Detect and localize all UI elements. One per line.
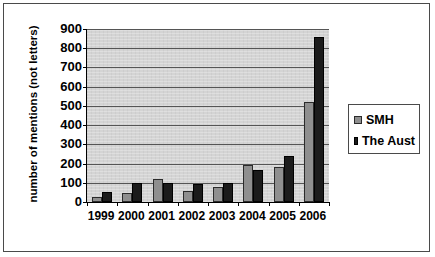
chart-figure: number of mentions (not letters) 9008007… [3,3,430,252]
bar-2004-smh [243,165,253,202]
x-tick-mark [208,202,209,206]
y-tick-label: 0 [36,197,82,207]
x-tick-mark [299,202,300,206]
x-tick-mark [178,202,179,206]
bar-2003-smh [213,187,223,202]
x-tick-mark [238,202,239,206]
bar-2006-the-aust [314,37,324,202]
bar-2002-smh [183,191,193,202]
bar-group [299,29,329,202]
legend-label-smh: SMH [366,113,394,127]
legend-swatch-smh [354,116,362,124]
y-tick-label: 200 [36,159,82,169]
x-tick-mark [329,202,330,206]
bar-2005-the-aust [284,156,294,202]
x-tick-label: 2006 [293,209,333,223]
bar-1999-smh [92,197,102,202]
bar-2000-the-aust [132,183,142,202]
bar-group [238,29,268,202]
legend-label-the-aust: The Aust [362,134,415,148]
legend-item-smh: SMH [354,109,415,130]
y-tick-label: 900 [36,24,82,34]
x-tick-mark [117,202,118,206]
bar-2001-smh [153,179,163,202]
y-tick-label: 100 [36,178,82,188]
bar-group [269,29,299,202]
bar-2002-the-aust [193,184,203,202]
y-tick-label: 700 [36,62,82,72]
bar-group [117,29,147,202]
y-tick-label: 500 [36,101,82,111]
bar-series-container [87,29,329,202]
bar-group [178,29,208,202]
x-tick-mark [269,202,270,206]
bar-2006-smh [304,102,314,202]
y-tick-label: 400 [36,120,82,130]
x-axis-tick-labels: 19992000200120022003200420052006 [86,209,328,225]
bar-2001-the-aust [163,183,173,202]
legend-swatch-the-aust [354,137,358,145]
bar-group [148,29,178,202]
x-tick-mark [148,202,149,206]
y-tick-label: 600 [36,82,82,92]
chart-legend: SMH The Aust [348,104,420,154]
y-tick-label: 300 [36,139,82,149]
plot-area [86,29,329,203]
x-tick-mark [87,202,88,206]
bar-2005-smh [274,167,284,202]
bar-2004-the-aust [253,170,263,202]
bar-group [208,29,238,202]
bar-group [87,29,117,202]
y-tick-label: 800 [36,43,82,53]
legend-item-the-aust: The Aust [354,130,415,151]
bar-1999-the-aust [102,192,112,202]
bar-2000-smh [122,193,132,202]
y-axis-tick-labels: 9008007006005004003002001000 [36,24,82,206]
bar-2003-the-aust [223,183,233,202]
